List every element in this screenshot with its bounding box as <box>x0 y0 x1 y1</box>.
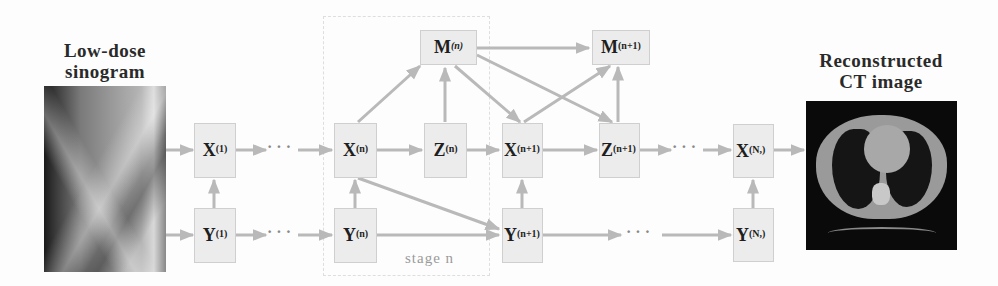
node-zn: Z(n) <box>424 123 467 178</box>
node-yn1: Y(n+1) <box>502 208 543 263</box>
ellipsis-y-right: · · · <box>626 223 650 241</box>
node-x1: X(1) <box>194 123 236 178</box>
ellipsis-x-left: · · · <box>267 138 291 156</box>
node-xN: X(N,) <box>733 124 774 178</box>
node-y1: Y(1) <box>194 208 236 263</box>
node-xn: X(n) <box>334 123 377 178</box>
node-zn1: Z(n+1) <box>599 123 640 178</box>
node-xn1: X(n+1) <box>502 123 543 178</box>
arrow-layer <box>0 0 998 286</box>
ellipsis-y-left: · · · <box>267 223 291 241</box>
node-yn: Y(n) <box>334 208 377 263</box>
node-mn1: M(n+1) <box>592 30 650 65</box>
ellipsis-x-right: · · · <box>672 138 696 156</box>
node-yN: Y(N,) <box>733 208 774 262</box>
node-mn: M(n) <box>420 30 477 65</box>
